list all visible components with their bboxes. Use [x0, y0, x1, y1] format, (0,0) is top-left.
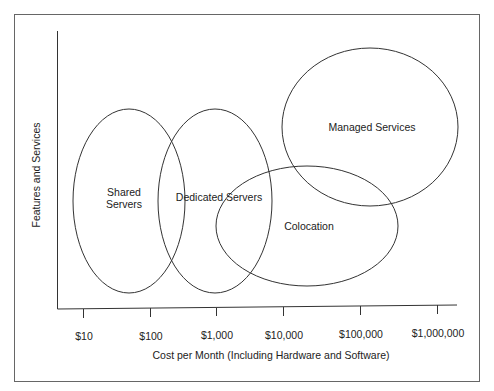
tick-label-10000: $10,000: [265, 329, 303, 341]
tick-label-100: $100: [139, 330, 163, 342]
tick-label-10: $10: [75, 330, 93, 342]
tick-label-100000: $100,000: [339, 328, 383, 340]
diagram-canvas: $10 $100 $1,000 $10,000 $100,000 $1,000,…: [0, 0, 494, 391]
y-axis-title: Features and Services: [30, 122, 42, 227]
x-axis: [58, 305, 458, 309]
x-axis-title: Cost per Month (Including Hardware and S…: [153, 349, 390, 361]
label-shared-servers-line1: Shared: [107, 186, 141, 198]
label-managed-services: Managed Services: [329, 121, 416, 133]
label-shared-servers-line2: Servers: [106, 198, 142, 210]
tick-label-1000: $1,000: [201, 329, 233, 341]
label-colocation: Colocation: [284, 220, 334, 232]
label-dedicated-servers: Dedicated Servers: [176, 191, 262, 203]
tick-label-1000000: $1,000,000: [412, 327, 465, 339]
